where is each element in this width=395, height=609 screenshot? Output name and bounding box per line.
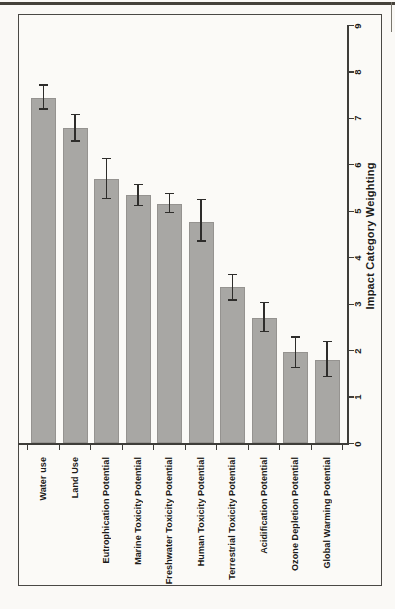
category-axis-tick: [311, 444, 312, 450]
value-axis-tick-label: 6: [353, 162, 363, 167]
category-axis-tick: [185, 444, 186, 450]
category-label: Land Use: [69, 457, 82, 498]
category-axis-tick: [279, 444, 280, 450]
category-label: Eutrophication Potential: [100, 457, 113, 563]
error-bar-stem: [200, 200, 201, 241]
chart-photo: 0123456789 Impact Category Weighting Wat…: [0, 0, 395, 609]
error-bar-cap: [228, 299, 237, 300]
category-label: Freshwater Toxicity Potential: [163, 457, 176, 584]
value-axis-line: [347, 25, 348, 445]
error-bar-stem: [326, 341, 327, 376]
category-axis-tick: [153, 444, 154, 450]
category-label: Acidification Potential: [258, 457, 271, 554]
category-label: Global Warming Potential: [321, 457, 334, 569]
error-bar-cap: [71, 114, 80, 115]
error-bar-stem: [43, 85, 44, 109]
error-bar-stem: [169, 194, 170, 213]
error-bar-cap: [323, 341, 332, 342]
error-bar-cap: [197, 240, 206, 241]
error-bar-cap: [228, 274, 237, 275]
error-bar-cap: [39, 84, 48, 85]
error-bar-stem: [74, 114, 75, 141]
category-axis-tick: [59, 444, 60, 450]
value-axis-tick-label: 7: [353, 116, 363, 121]
error-bar-cap: [291, 367, 300, 368]
value-axis-tick-label: 1: [353, 394, 363, 399]
bar: [189, 222, 214, 444]
error-bar-cap: [134, 184, 143, 185]
error-bar-cap: [39, 108, 48, 109]
bar: [126, 195, 151, 443]
category-label: Human Toxicity Potential: [195, 457, 208, 566]
error-bar-stem: [106, 158, 107, 198]
plot-area: 0123456789 Impact Category Weighting Wat…: [0, 0, 395, 609]
value-axis-tick-label: 0: [353, 441, 363, 446]
category-label: Water use: [37, 457, 50, 501]
bar: [157, 204, 182, 443]
bar: [94, 179, 119, 444]
value-axis-title: Impact Category Weighting: [364, 162, 376, 309]
value-axis-tick-label: 5: [353, 209, 363, 214]
value-axis-tick-label: 4: [353, 255, 363, 260]
category-axis-tick: [216, 444, 217, 450]
error-bar-cap: [165, 212, 174, 213]
bar: [252, 318, 277, 444]
error-bar-stem: [232, 274, 233, 300]
error-bar-cap: [291, 336, 300, 337]
bar: [63, 128, 88, 444]
value-axis-tick-label: 3: [353, 302, 363, 307]
category-label: Terrestrial Toxicity Potential: [226, 457, 239, 580]
value-axis-tick-label: 8: [353, 69, 363, 74]
value-axis-tick-label: 9: [353, 23, 363, 28]
category-axis-line: [18, 443, 349, 444]
error-bar-cap: [197, 199, 206, 200]
error-bar-cap: [102, 158, 111, 159]
value-axis-tick-label: 2: [353, 348, 363, 353]
error-bar-stem: [295, 337, 296, 368]
error-bar-cap: [134, 205, 143, 206]
bar: [31, 98, 56, 444]
error-bar-stem: [137, 184, 138, 205]
error-bar-cap: [165, 193, 174, 194]
error-bar-cap: [260, 302, 269, 303]
category-label: Marine Toxicity Potential: [132, 457, 145, 565]
error-bar-cap: [260, 331, 269, 332]
category-axis-tick: [342, 444, 343, 450]
category-axis-tick: [90, 444, 91, 450]
category-axis-tick: [27, 444, 28, 450]
error-bar-cap: [102, 198, 111, 199]
bar: [220, 287, 245, 444]
category-label: Ozone Depletion Potential: [289, 457, 302, 571]
category-axis-tick: [122, 444, 123, 450]
error-bar-cap: [71, 140, 80, 141]
error-bar-cap: [323, 376, 332, 377]
category-axis-tick: [248, 444, 249, 450]
error-bar-stem: [263, 303, 264, 332]
